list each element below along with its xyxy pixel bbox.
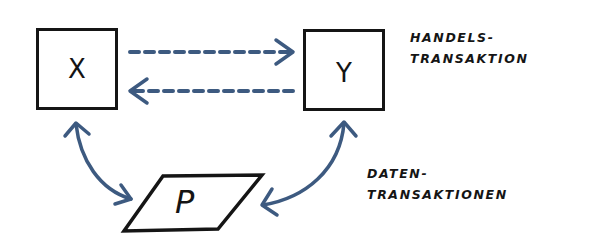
- node-x: X: [36, 28, 118, 110]
- caption-trade-line2: TRANSAKTION: [410, 48, 529, 69]
- caption-data-transactions: DATEN- TRANSAKTIONEN: [367, 163, 508, 205]
- node-y: Y: [303, 29, 385, 111]
- data-arrow-x-p: [65, 123, 131, 204]
- node-p-label: P: [175, 186, 194, 218]
- caption-trade-line1: HANDELS-: [410, 27, 529, 48]
- caption-trade-transaction: HANDELS- TRANSAKTION: [410, 27, 529, 69]
- diagram-canvas: X Y P HANDELS- TRANSAKTION DATEN- TRANSA…: [0, 0, 589, 250]
- caption-data-line1: DATEN-: [367, 163, 508, 184]
- node-y-label: Y: [336, 54, 352, 86]
- trade-arrow-x-to-y: [130, 40, 293, 64]
- data-arrow-y-p: [262, 122, 356, 215]
- node-x-label: X: [68, 56, 86, 82]
- trade-arrow-y-to-x: [130, 79, 295, 103]
- caption-data-line2: TRANSAKTIONEN: [367, 184, 508, 205]
